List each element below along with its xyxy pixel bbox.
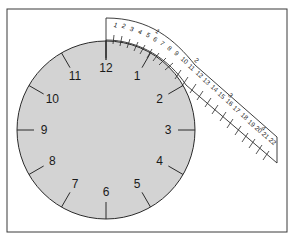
hour-label: 4	[156, 154, 163, 168]
hour-label: 7	[72, 177, 79, 191]
hour-label: 11	[69, 69, 82, 83]
hour-label: 9	[41, 123, 48, 137]
hour-label: 10	[46, 92, 60, 106]
hour-label: 1	[134, 69, 141, 83]
hour-label: 8	[49, 154, 56, 168]
hour-label: 12	[99, 61, 113, 75]
hour-label: 5	[134, 177, 141, 191]
hour-label: 2	[156, 92, 163, 106]
hour-label: 6	[103, 185, 110, 199]
hour-label: 3	[165, 123, 172, 137]
clock-tape-diagram: 121234567891011 123456789101112131415161…	[0, 0, 295, 239]
